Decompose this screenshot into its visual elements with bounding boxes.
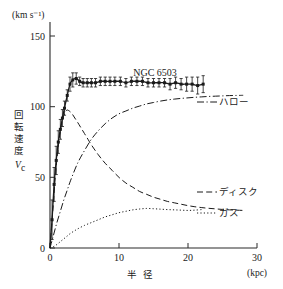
data-point — [202, 83, 205, 86]
data-point — [135, 80, 138, 83]
x-tick-label-20: 20 — [183, 252, 193, 263]
x-axis-title: 半 径 — [127, 269, 155, 280]
y-axis-title-char-1: 回 — [14, 110, 24, 120]
series-label-halo: ハロー — [219, 97, 249, 107]
disk-curve — [50, 110, 243, 248]
series-label-disk: ディスク — [219, 186, 258, 197]
data-point — [104, 80, 107, 83]
data-point — [99, 80, 102, 83]
data-point — [75, 77, 78, 80]
rotation-curve-figure: (km s⁻¹) 回 転 速 度 V c 0 50 100 150 0 10 2… — [0, 0, 283, 289]
x-tick-label-0: 0 — [48, 252, 53, 263]
y-tick-label-150: 150 — [30, 31, 45, 42]
data-point — [124, 81, 127, 84]
data-point — [57, 141, 60, 144]
y-axis-title-char-4: 度 — [14, 145, 24, 156]
data-point — [185, 83, 188, 86]
data-point — [59, 128, 62, 131]
data-point-group — [51, 77, 205, 221]
y-axis-title-char-3: 速 — [14, 134, 24, 144]
x-tick-label-30: 30 — [252, 252, 262, 263]
data-point — [113, 80, 116, 83]
curve-group — [50, 78, 243, 248]
data-point — [191, 83, 194, 86]
y-axis-unit-label: (km s⁻¹) — [12, 10, 44, 21]
data-point — [146, 81, 149, 84]
data-point — [158, 81, 161, 84]
x-tick-label-10: 10 — [114, 252, 124, 263]
y-axis-symbol-subscript: c — [21, 163, 25, 173]
data-point — [66, 94, 69, 97]
data-point — [163, 81, 166, 84]
data-point — [71, 78, 74, 81]
error-bar-group — [50, 73, 204, 240]
gas-curve — [50, 208, 202, 248]
data-point — [69, 83, 72, 86]
data-point — [51, 218, 54, 221]
data-point — [61, 117, 64, 120]
data-point — [82, 81, 85, 84]
data-point — [63, 107, 66, 110]
x-axis-unit-label: (kpc) — [247, 268, 267, 279]
series-label-gas: ガス — [219, 208, 239, 218]
data-point — [53, 183, 56, 186]
data-point — [119, 80, 122, 83]
y-axis-title-char-2: 転 — [14, 122, 24, 132]
data-point — [196, 84, 199, 87]
rotation-curve-plot: (km s⁻¹) 回 転 速 度 V c 0 50 100 150 0 10 2… — [0, 0, 283, 289]
data-point — [94, 81, 97, 84]
data-point — [141, 80, 144, 83]
data-point — [55, 159, 58, 162]
data-point — [86, 81, 89, 84]
observed-rotation-curve — [50, 78, 203, 248]
data-point — [152, 81, 155, 84]
y-tick-label-100: 100 — [30, 101, 45, 112]
y-tick-label-0: 0 — [40, 243, 45, 254]
data-point — [130, 80, 133, 83]
data-point — [90, 81, 93, 84]
halo-curve — [50, 95, 243, 248]
data-point — [169, 83, 172, 86]
object-name-label: NGC 6503 — [133, 67, 177, 78]
data-point — [78, 80, 81, 83]
data-point — [109, 80, 112, 83]
data-point — [180, 83, 183, 86]
data-point — [174, 81, 177, 84]
y-tick-label-50: 50 — [35, 172, 45, 183]
